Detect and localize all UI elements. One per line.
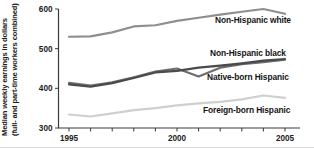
y-axis-tick-label: 300 (39, 124, 53, 133)
x-axis-tick-label: 1995 (60, 134, 79, 143)
y-axis-tick-label: 500 (39, 45, 53, 54)
series-label-foreign-born-hispanic: Foreign-born Hispanic (203, 105, 291, 115)
series-label-non-hispanic-white: Non-Hispanic white (215, 15, 291, 25)
y-axis-tick-labels: 300400500600 (39, 5, 53, 133)
x-axis-tick-label: 2005 (276, 134, 295, 143)
series-label-native-born-hispanic: Native-born Hispanic (207, 72, 289, 82)
line-chart-plot: 300400500600 199520002005 Non-Hispanic w… (0, 0, 314, 148)
chart-series-lines (69, 9, 285, 117)
chart-figure: Median weekly earnings in dollars (full-… (0, 0, 314, 148)
y-axis-tick-label: 400 (39, 84, 53, 93)
y-axis-tick-label: 600 (39, 5, 53, 14)
x-axis-tick-labels: 199520002005 (60, 134, 295, 143)
x-axis-tick-label: 2000 (168, 134, 187, 143)
series-label-non-hispanic-black: Non-Hispanic black (210, 48, 286, 58)
